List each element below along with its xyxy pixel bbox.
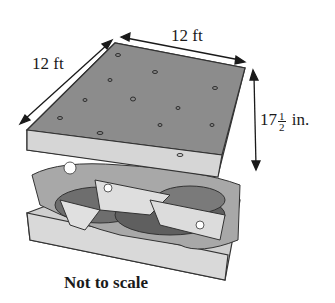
- sandwich-illustration: [0, 0, 335, 303]
- fraction-denominator: 2: [279, 122, 285, 132]
- height-dimension-label: 1712 in.: [260, 110, 309, 132]
- height-unit: in.: [292, 110, 309, 129]
- fraction-numerator: 1: [278, 111, 286, 122]
- depth-dimension-label: 12 ft: [32, 54, 64, 74]
- width-dimension-label: 12 ft: [171, 26, 203, 46]
- not-to-scale-caption: Not to scale: [64, 273, 148, 293]
- height-whole: 17: [260, 110, 277, 129]
- height-fraction: 12: [278, 111, 286, 132]
